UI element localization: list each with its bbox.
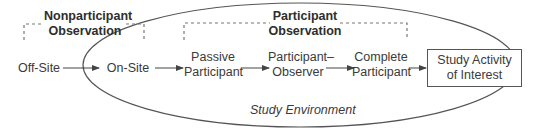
node-complete-line1: Complete bbox=[352, 50, 410, 65]
observation-continuum-diagram: Nonparticipant Observation Participant O… bbox=[0, 0, 543, 134]
participant-line2: Observation bbox=[265, 24, 345, 39]
node-complete-line2: Participant bbox=[352, 65, 410, 80]
node-off-site: Off-Site bbox=[14, 60, 64, 76]
participant-line1: Participant bbox=[265, 9, 345, 24]
nonparticipant-observation-label: Nonparticipant Observation bbox=[44, 9, 126, 39]
node-passive-line1: Passive bbox=[184, 50, 242, 65]
node-participant-observer: Participant– Observer bbox=[268, 50, 328, 80]
participant-observation-label: Participant Observation bbox=[265, 9, 345, 39]
nonparticipant-line2: Observation bbox=[44, 24, 126, 39]
node-activity-line2: of Interest bbox=[437, 68, 511, 83]
node-off-site-label: Off-Site bbox=[18, 61, 60, 76]
node-on-site: On-Site bbox=[102, 60, 154, 76]
node-passive-participant: Passive Participant bbox=[184, 50, 242, 80]
nonparticipant-line1: Nonparticipant bbox=[44, 9, 126, 24]
node-study-activity-box: Study Activity of Interest bbox=[427, 49, 522, 87]
study-environment-label: Study Environment bbox=[250, 103, 350, 118]
node-observer-line2: Observer bbox=[268, 65, 328, 80]
node-complete-participant: Complete Participant bbox=[352, 50, 410, 80]
node-activity-line1: Study Activity bbox=[437, 53, 511, 68]
node-observer-line1: Participant– bbox=[268, 50, 328, 65]
node-on-site-label: On-Site bbox=[107, 61, 149, 76]
node-passive-line2: Participant bbox=[184, 65, 242, 80]
